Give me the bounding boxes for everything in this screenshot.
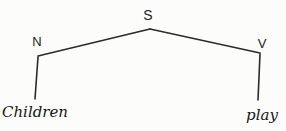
leaf-word-children: Children (2, 103, 68, 121)
syntax-tree-diagram: S N V Children play (0, 0, 286, 131)
node-s-label: S (143, 7, 152, 23)
edge-n-to-children (35, 57, 38, 99)
leaf-word-play: play (246, 106, 278, 124)
edge-s-to-n (38, 29, 150, 56)
node-v-label: V (258, 36, 267, 51)
node-n-label: N (32, 34, 41, 49)
edge-v-to-play (258, 54, 260, 100)
tree-canvas: S N V Children play (0, 0, 286, 131)
edge-s-to-v (150, 29, 260, 53)
